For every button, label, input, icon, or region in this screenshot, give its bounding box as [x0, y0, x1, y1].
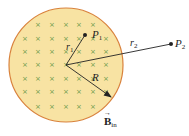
x-marker-icon: × [90, 61, 96, 69]
x-marker-icon: × [35, 75, 41, 83]
x-marker-icon: × [35, 48, 41, 56]
x-marker-icon: × [63, 88, 69, 96]
x-marker-icon: × [49, 21, 55, 29]
x-marker-icon: × [22, 61, 28, 69]
x-marker-icon: × [90, 48, 96, 56]
x-marker-icon: × [63, 103, 69, 111]
x-marker-icon: × [22, 35, 28, 43]
x-marker-icon: × [103, 35, 109, 43]
x-marker-icon: × [35, 61, 41, 69]
x-marker-icon: × [103, 61, 109, 69]
label-b-in: Bin [104, 115, 117, 129]
x-marker-icon: × [63, 21, 69, 29]
x-marker-icon: × [22, 75, 28, 83]
x-marker-icon: × [103, 48, 109, 56]
x-marker-icon: × [35, 35, 41, 43]
x-marker-icon: × [103, 75, 109, 83]
x-marker-icon: × [63, 75, 69, 83]
label-p2: P2 [174, 37, 186, 51]
x-marker-icon: × [49, 35, 55, 43]
x-marker-icon: × [49, 103, 55, 111]
x-marker-icon: × [35, 103, 41, 111]
magnetic-field-diagram: ××××××××××××××××××××××××××××××××××××××××… [0, 0, 189, 136]
x-marker-icon: × [22, 48, 28, 56]
x-marker-icon: × [35, 88, 41, 96]
x-marker-icon: × [35, 21, 41, 29]
x-marker-icon: × [49, 48, 55, 56]
point-p1 [83, 33, 87, 37]
x-marker-icon: × [49, 61, 55, 69]
label-R: R [91, 71, 99, 83]
x-marker-icon: × [76, 88, 82, 96]
label-r2: r2 [130, 37, 138, 50]
x-marker-icon: × [49, 88, 55, 96]
x-marker-icon: × [22, 88, 28, 96]
x-marker-icon: × [76, 21, 82, 29]
point-p2 [169, 42, 173, 46]
x-marker-icon: × [76, 48, 82, 56]
x-marker-icon: × [90, 88, 96, 96]
x-marker-icon: × [49, 75, 55, 83]
x-marker-icon: × [76, 103, 82, 111]
x-marker-icon: × [90, 103, 96, 111]
